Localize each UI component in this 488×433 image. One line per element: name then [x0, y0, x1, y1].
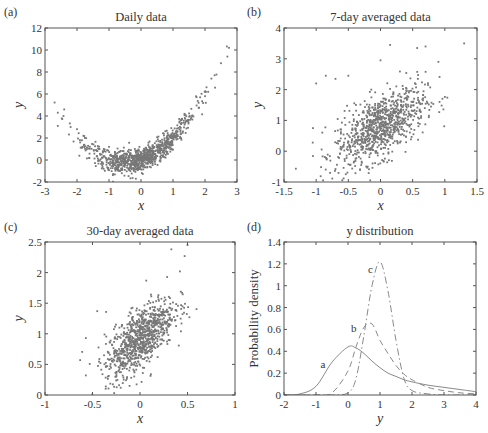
- data-point: [161, 335, 163, 337]
- data-point: [357, 143, 359, 145]
- data-point: [109, 164, 111, 166]
- data-point: [389, 88, 391, 90]
- data-point: [214, 74, 216, 76]
- data-point: [156, 155, 158, 157]
- data-point: [129, 170, 131, 172]
- data-point: [105, 362, 107, 364]
- data-point: [383, 128, 385, 130]
- y-tick-label: 6: [37, 88, 43, 100]
- data-point: [389, 121, 391, 123]
- data-point: [154, 319, 156, 321]
- data-point: [114, 364, 116, 366]
- data-point: [334, 141, 336, 143]
- data-point: [89, 146, 91, 148]
- data-point: [130, 364, 132, 366]
- data-point: [384, 107, 386, 109]
- data-point: [312, 127, 314, 129]
- data-point: [128, 370, 130, 372]
- data-point: [377, 146, 379, 148]
- data-point: [115, 165, 117, 167]
- data-point: [368, 143, 370, 145]
- data-point: [115, 372, 117, 374]
- data-point: [396, 140, 398, 142]
- data-point: [180, 330, 182, 332]
- data-point: [187, 119, 189, 121]
- data-point: [417, 97, 419, 99]
- data-point: [124, 186, 126, 188]
- data-point: [132, 159, 134, 161]
- data-point: [214, 87, 216, 89]
- data-point: [105, 311, 107, 313]
- data-point: [405, 151, 407, 153]
- data-point: [204, 95, 206, 97]
- data-point: [133, 376, 135, 378]
- data-point: [386, 114, 388, 116]
- data-point: [148, 146, 150, 148]
- data-point: [141, 162, 143, 164]
- data-point: [137, 347, 139, 349]
- data-point: [111, 344, 113, 346]
- data-point: [372, 141, 374, 143]
- data-point: [136, 154, 138, 156]
- data-point: [101, 164, 103, 166]
- data-point: [338, 157, 340, 159]
- data-point: [114, 151, 116, 153]
- data-point: [157, 164, 159, 166]
- data-point: [158, 326, 160, 328]
- data-point: [160, 305, 162, 307]
- data-point: [161, 141, 163, 143]
- data-point: [338, 172, 340, 174]
- data-point: [405, 136, 407, 138]
- data-point: [134, 372, 136, 374]
- data-point: [405, 72, 407, 74]
- data-point: [150, 166, 152, 168]
- data-point: [79, 139, 81, 141]
- data-point: [406, 98, 408, 100]
- data-point: [138, 318, 140, 320]
- data-point: [331, 178, 333, 180]
- data-point: [367, 166, 369, 168]
- data-point: [147, 339, 149, 341]
- data-point: [170, 147, 172, 149]
- data-point: [137, 169, 139, 171]
- data-point: [156, 340, 158, 342]
- data-point: [393, 119, 395, 121]
- data-point: [139, 333, 141, 335]
- data-point: [377, 138, 379, 140]
- data-point: [150, 294, 152, 296]
- y-tick-label: 2: [37, 267, 43, 279]
- data-point: [156, 333, 158, 335]
- data-point: [163, 133, 165, 135]
- data-point: [206, 86, 208, 88]
- data-point: [112, 155, 114, 157]
- data-point: [131, 336, 133, 338]
- data-point: [364, 100, 366, 102]
- y-tick-label: 2: [276, 84, 282, 96]
- data-point: [142, 347, 144, 349]
- y-tick-label: 2.5: [28, 236, 42, 248]
- data-point: [408, 111, 410, 113]
- data-point: [351, 124, 353, 126]
- data-point: [81, 139, 83, 141]
- data-point: [124, 175, 126, 177]
- data-point: [355, 160, 357, 162]
- data-point: [96, 310, 98, 312]
- data-point: [368, 106, 370, 108]
- data-point: [180, 131, 182, 133]
- data-point: [166, 311, 168, 313]
- data-point: [350, 164, 352, 166]
- y-tick-label: 1: [276, 114, 282, 126]
- data-point: [61, 117, 63, 119]
- data-point: [108, 158, 110, 160]
- data-point: [135, 335, 137, 337]
- data-point: [135, 326, 137, 328]
- data-point: [118, 348, 120, 350]
- data-point: [139, 350, 141, 352]
- data-point: [85, 337, 87, 339]
- data-point: [153, 153, 155, 155]
- data-point: [382, 105, 384, 107]
- data-point: [107, 376, 109, 378]
- data-point: [188, 113, 190, 115]
- data-point: [142, 168, 144, 170]
- data-point: [388, 159, 390, 161]
